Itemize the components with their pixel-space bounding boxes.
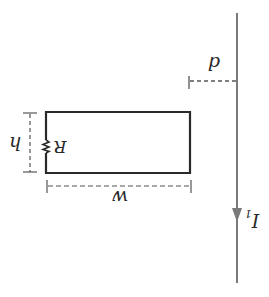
current-label: I1: [245, 207, 261, 232]
height-dimension: [23, 113, 37, 172]
distance-dimension: [189, 76, 236, 89]
resistor-icon: [43, 140, 49, 153]
distance-label: d: [208, 53, 220, 75]
width-label: w: [112, 187, 128, 209]
diagram-canvas: I1 d R h w: [0, 0, 269, 297]
resistor-label: R: [53, 137, 67, 157]
current-arrow-icon: [232, 208, 242, 222]
height-label: h: [9, 133, 21, 155]
straight-wire: [232, 13, 242, 283]
